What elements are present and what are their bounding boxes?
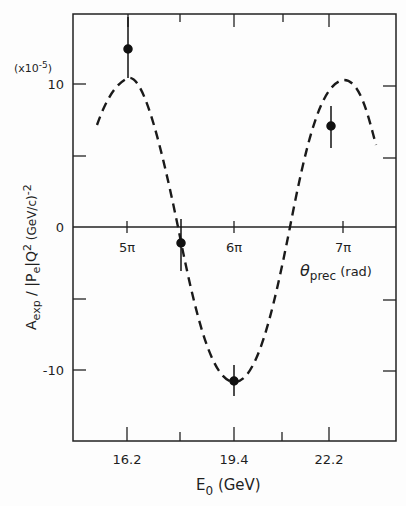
theta-label-5pi: 5π: [119, 240, 135, 255]
x-ticks-top: [128, 14, 329, 27]
xtick-label-16-2: 16.2: [113, 452, 142, 467]
x-ticks-bottom: [127, 427, 329, 441]
ytick-label-10: 10: [47, 77, 64, 92]
xtick-label-19-4: 19.4: [220, 452, 249, 467]
data-point: [124, 45, 132, 53]
theta-label-7pi: 7π: [335, 240, 351, 255]
y-axis-label: Aexp / |Pe|Q2 (GeV/c)-2: [21, 184, 43, 330]
y-scale-note: (x10-5): [14, 60, 52, 75]
x-axis-label: E0 (GeV): [196, 476, 261, 498]
data-points: [124, 17, 335, 396]
ytick-label-minus10: -10: [43, 363, 64, 378]
y-ticks-right: [383, 86, 396, 371]
theta-label-6pi: 6π: [226, 240, 242, 255]
xtick-label-22-2: 22.2: [315, 452, 344, 467]
theta-axis-label: θprec (rad): [300, 261, 372, 283]
ytick-label-0: 0: [56, 220, 64, 235]
data-point: [177, 239, 185, 247]
chart-canvas: 10 0 -10 (x10-5) 16.2 19.4 22.2 5π 6π 7π…: [0, 0, 406, 506]
data-point: [327, 122, 335, 130]
data-point: [230, 377, 238, 385]
